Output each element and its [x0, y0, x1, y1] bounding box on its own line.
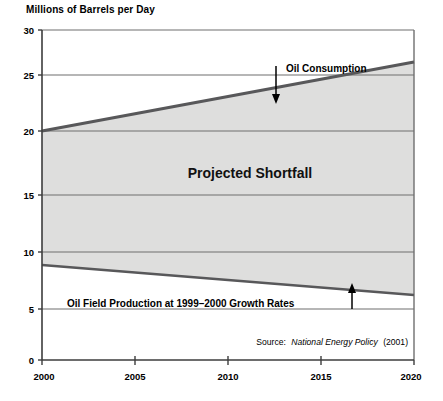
- source-year: (2001): [383, 337, 408, 347]
- source-title: National Energy Policy: [291, 337, 378, 347]
- x-tick-label-2005: 2005: [124, 371, 146, 382]
- chart-container: Millions of Barrels per Day: [0, 0, 443, 401]
- projected-shortfall-label: Projected Shortfall: [188, 165, 312, 181]
- y-tick-label-10: 10: [23, 247, 34, 258]
- x-tick-label-2010: 2010: [217, 371, 238, 382]
- x-tick-label-2015: 2015: [310, 371, 332, 382]
- x-tick-label-2020: 2020: [400, 371, 421, 382]
- chart-plot-area: 30 25 20 15 10 5 0 2000 2005 2010 2015 2…: [0, 0, 443, 401]
- oil-field-production-label: Oil Field Production at 1999–2000 Growth…: [67, 298, 295, 309]
- y-tick-label-30: 30: [23, 25, 34, 36]
- y-tick-label-5: 5: [29, 304, 35, 315]
- source-prefix: Source:: [256, 337, 286, 347]
- source-note: Source: National Energy Policy (2001): [256, 337, 408, 347]
- x-tick-label-2000: 2000: [33, 371, 54, 382]
- y-tick-label-0: 0: [29, 355, 34, 366]
- y-tick-label-20: 20: [23, 126, 34, 137]
- oil-consumption-label: Oil Consumption: [286, 63, 367, 74]
- y-tick-label-25: 25: [23, 70, 34, 81]
- y-tick-label-15: 15: [23, 190, 34, 201]
